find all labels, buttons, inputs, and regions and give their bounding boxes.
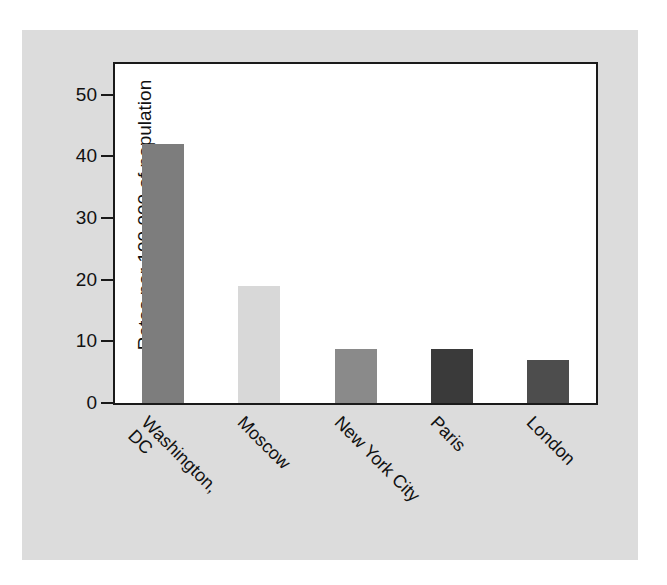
x-axis-label-line: Moscow [234,413,294,473]
y-tick-mark [101,217,115,219]
plot-area: Washington,DCMoscowNew York CityParisLon… [115,64,596,403]
y-tick-mark [101,402,115,404]
y-tick-label: 50 [76,84,97,106]
x-axis-label: Moscow [234,413,294,473]
y-tick-label: 30 [76,207,97,229]
figure-panel: Rates per 100,000 of population 01020304… [22,30,638,560]
bar [142,144,184,403]
y-tick-mark [101,340,115,342]
x-axis-label-line: London [523,413,579,469]
y-tick-label: 10 [76,330,97,352]
plot-frame: Rates per 100,000 of population 01020304… [113,62,598,405]
y-tick-label: 20 [76,269,97,291]
y-tick-label: 0 [86,392,97,414]
bar [527,360,569,403]
x-axis-label: London [523,413,579,469]
y-tick-mark [101,155,115,157]
x-axis-label: New York City [330,413,423,506]
y-tick-mark [101,94,115,96]
y-tick-label: 40 [76,145,97,167]
x-axis-label-line: Paris [426,413,468,455]
x-axis-label-line: New York City [330,413,423,506]
bar [431,349,473,403]
bar [238,286,280,403]
bar [335,349,377,403]
x-axis-label: Paris [426,413,468,455]
y-tick-mark [101,279,115,281]
